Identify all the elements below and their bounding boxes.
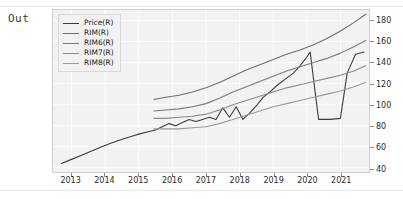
x-axis-tick-label: 2017 <box>196 176 216 185</box>
y-axis-tick-label: 60 <box>376 143 386 152</box>
legend-item[interactable]: RIM7(R) <box>63 48 114 58</box>
y-axis-tick-label: 100 <box>376 100 391 109</box>
x-axis-tick-label: 2021 <box>331 176 351 185</box>
chart-series-line <box>154 14 366 99</box>
y-axis-tick-mark <box>370 20 374 21</box>
y-axis-tick-label: 140 <box>376 58 391 67</box>
legend-item-label: RIM7(R) <box>84 48 114 58</box>
legend-item[interactable]: RIM8(R) <box>63 58 114 68</box>
x-axis-tick-label: 2014 <box>94 176 114 185</box>
x-axis-tick-label: 2013 <box>60 176 80 185</box>
y-axis-tick-label: 120 <box>376 79 391 88</box>
y-axis-tick-mark <box>370 169 374 170</box>
x-axis-tick-label: 2019 <box>263 176 283 185</box>
legend-line-swatch <box>63 33 79 34</box>
output-prompt-label: Out <box>8 12 29 25</box>
legend-line-swatch <box>63 23 79 24</box>
y-axis-tick-mark <box>370 62 374 63</box>
y-axis-tick-label: 80 <box>376 122 386 131</box>
y-axis-tick-label: 180 <box>376 15 391 24</box>
y-axis-tick-mark <box>370 147 374 148</box>
legend-line-swatch <box>63 63 79 64</box>
legend-item[interactable]: RIM6(R) <box>63 38 114 48</box>
cell-bottom-divider <box>0 190 403 191</box>
y-axis-tick-label: 160 <box>376 36 391 45</box>
chart-figure: Price(R)RIM(R)RIM6(R)RIM7(R)RIM8(R) <box>52 9 370 173</box>
chart-legend: Price(R)RIM(R)RIM6(R)RIM7(R)RIM8(R) <box>58 14 121 72</box>
chart-series-line <box>154 41 366 111</box>
x-axis-tick-label: 2015 <box>128 176 148 185</box>
legend-item[interactable]: RIM(R) <box>63 28 114 38</box>
cell-top-divider <box>0 6 403 7</box>
legend-item-label: RIM8(R) <box>84 58 114 68</box>
y-axis-tick-mark <box>370 126 374 127</box>
legend-item[interactable]: Price(R) <box>63 18 114 28</box>
y-axis-tick-mark <box>370 41 374 42</box>
y-axis-tick-label: 40 <box>376 164 386 173</box>
legend-line-swatch <box>63 53 79 54</box>
x-axis-tick-label: 2018 <box>230 176 250 185</box>
x-axis-tick-label: 2016 <box>162 176 182 185</box>
notebook-output-cell: Out Price(R)RIM(R)RIM6(R)RIM7(R)RIM8(R) … <box>0 0 403 199</box>
x-axis-tick-label: 2020 <box>297 176 317 185</box>
y-axis-tick-mark <box>370 84 374 85</box>
legend-item-label: RIM6(R) <box>84 38 114 48</box>
y-axis-tick-mark <box>370 105 374 106</box>
chart-series-line <box>154 83 366 129</box>
legend-item-label: RIM(R) <box>84 28 109 38</box>
legend-item-label: Price(R) <box>84 18 113 28</box>
legend-line-swatch <box>63 43 79 44</box>
chart-plot-area: Price(R)RIM(R)RIM6(R)RIM7(R)RIM8(R) <box>52 9 370 173</box>
